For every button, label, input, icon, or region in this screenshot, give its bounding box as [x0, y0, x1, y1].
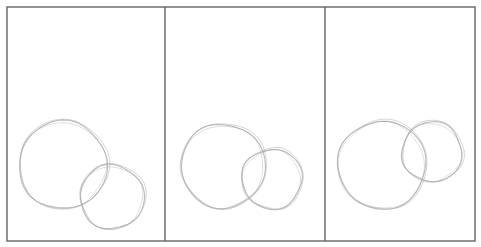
small-circle — [401, 120, 464, 182]
large-circle — [20, 119, 110, 209]
sketch-canvas — [0, 0, 481, 247]
three-panel-sketch — [0, 0, 481, 247]
panels — [20, 119, 465, 229]
large-circle — [337, 119, 427, 209]
small-circle — [80, 164, 147, 230]
panel-3 — [337, 119, 464, 209]
small-circle — [242, 147, 304, 209]
panel-2 — [180, 124, 303, 210]
panel-1 — [20, 119, 147, 229]
large-circle — [180, 124, 266, 210]
panel-dividers — [165, 7, 325, 241]
